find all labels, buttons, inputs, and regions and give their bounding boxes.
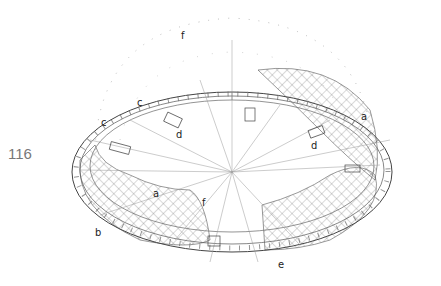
label-f-inner: f xyxy=(202,197,205,208)
label-e-bottom: e xyxy=(278,259,284,270)
roof-mesh-bottom-right xyxy=(262,168,377,251)
label-a-right: a xyxy=(361,111,367,122)
label-d-right: d xyxy=(311,140,317,151)
label-c-upper: c xyxy=(137,97,142,108)
label-b-left: b xyxy=(95,227,101,238)
stadium-roof-diagram xyxy=(0,0,441,286)
label-c-left: c xyxy=(101,117,106,128)
label-f-top: f xyxy=(181,30,184,41)
page-number: 116 xyxy=(8,145,32,162)
label-a-inner: a xyxy=(153,188,159,199)
label-d-left: d xyxy=(176,129,182,140)
